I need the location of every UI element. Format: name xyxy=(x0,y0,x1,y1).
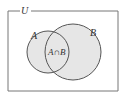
set-b-label: B xyxy=(90,27,96,38)
universe-label: U xyxy=(21,5,29,16)
set-a-label: A xyxy=(30,30,38,41)
venn-diagram: U A B A∩B xyxy=(0,0,123,101)
intersection-label: A∩B xyxy=(47,47,66,57)
